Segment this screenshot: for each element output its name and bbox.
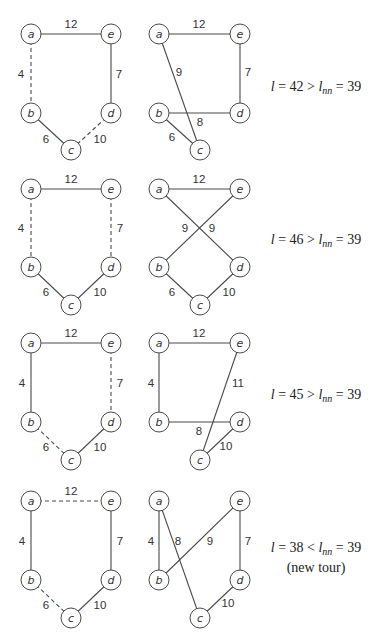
- graph-panel-original-tour: 1247610aebdc: [19, 327, 123, 470]
- node-label: a: [28, 337, 35, 350]
- node-label: a: [28, 28, 35, 41]
- node-e: e: [230, 333, 250, 353]
- node-c: c: [61, 295, 81, 315]
- edge-weight-label: 12: [193, 18, 206, 30]
- edge-weight-label: 12: [65, 173, 78, 185]
- edge-weight-label: 7: [245, 535, 251, 547]
- tour-length-formula: l = 45 > lnn = 39: [255, 387, 377, 407]
- node-d: d: [230, 103, 250, 123]
- node-label: b: [156, 261, 163, 274]
- edge-weight-label: 6: [43, 286, 49, 298]
- edge-weight-label: 4: [19, 535, 26, 547]
- tour-length-formula: l = 38 < lnn = 39(new tour): [255, 540, 377, 576]
- node-label: e: [237, 495, 244, 508]
- node-label: b: [28, 416, 35, 429]
- node-label: d: [237, 416, 245, 429]
- node-label: e: [108, 495, 115, 508]
- node-e: e: [101, 24, 121, 44]
- node-label: c: [197, 144, 203, 157]
- edge-weight-label: 6: [43, 133, 49, 145]
- formula-line: l = 42 > lnn = 39: [255, 79, 377, 99]
- node-a: a: [149, 24, 169, 44]
- node-label: d: [237, 574, 245, 587]
- node-b: b: [149, 257, 169, 277]
- graph-panel-modified-tour: 1299610aebdc: [149, 173, 250, 315]
- node-label: e: [237, 183, 244, 196]
- edge-weight-label: 4: [18, 68, 25, 80]
- node-label: d: [237, 107, 245, 120]
- edge-weight-label: 6: [169, 286, 175, 298]
- node-d: d: [101, 257, 121, 277]
- edge-weight-label: 12: [65, 485, 78, 497]
- graph-panel-original-tour: 1247610aebdc: [18, 173, 123, 315]
- node-label: b: [28, 261, 35, 274]
- node-label: d: [108, 416, 116, 429]
- node-label: c: [68, 144, 74, 157]
- node-e: e: [230, 24, 250, 44]
- node-c: c: [190, 140, 210, 160]
- edge-weight-label: 10: [94, 286, 107, 298]
- node-b: b: [149, 103, 169, 123]
- node-e: e: [101, 491, 121, 511]
- edge-weight-label: 9: [207, 535, 213, 547]
- node-label: e: [108, 28, 115, 41]
- edge-weight-label: 4: [19, 377, 26, 389]
- node-c: c: [190, 295, 210, 315]
- edge-weight-label: 12: [65, 327, 78, 339]
- node-label: e: [108, 183, 115, 196]
- node-d: d: [101, 412, 121, 432]
- edge-weight-label: 7: [117, 222, 123, 234]
- node-e: e: [101, 179, 121, 199]
- edge-weight-label: 11: [232, 377, 244, 389]
- graph-panel-modified-tour: 129786aebdc: [149, 18, 251, 160]
- node-label: d: [108, 107, 116, 120]
- edge-weight-label: 10: [94, 599, 107, 611]
- node-label: a: [156, 183, 163, 196]
- edge-weight-label: 7: [117, 377, 123, 389]
- node-a: a: [21, 333, 41, 353]
- edge-weight-label: 6: [43, 441, 49, 453]
- node-b: b: [149, 570, 169, 590]
- node-label: a: [156, 337, 163, 350]
- node-a: a: [149, 179, 169, 199]
- node-d: d: [230, 257, 250, 277]
- node-label: e: [237, 28, 244, 41]
- edge-weight-label: 8: [197, 116, 203, 128]
- node-a: a: [21, 179, 41, 199]
- edge-weight-label: 4: [148, 535, 155, 547]
- graph-panel-modified-tour: 489710aebdc: [148, 491, 251, 628]
- node-label: c: [68, 454, 74, 467]
- formula-line: l = 38 < lnn = 39: [255, 540, 377, 560]
- edge-weight-label: 10: [223, 286, 236, 298]
- node-b: b: [21, 103, 41, 123]
- node-label: b: [156, 574, 163, 587]
- node-c: c: [190, 450, 210, 470]
- edge-weight-label: 10: [220, 440, 233, 452]
- edge-weight-label: 12: [193, 173, 206, 185]
- node-label: d: [108, 261, 116, 274]
- node-label: b: [156, 107, 163, 120]
- node-a: a: [21, 24, 41, 44]
- node-label: a: [156, 495, 163, 508]
- node-d: d: [101, 570, 121, 590]
- tour-length-formula: l = 42 > lnn = 39: [255, 79, 377, 99]
- node-label: a: [156, 28, 163, 41]
- node-label: c: [197, 612, 203, 625]
- edge-weight-label: 6: [169, 131, 175, 143]
- edge-weight-label: 12: [65, 18, 78, 30]
- node-e: e: [230, 179, 250, 199]
- graph-panel-original-tour: 1247610aebdc: [19, 485, 123, 628]
- formula-note: (new tour): [255, 560, 377, 576]
- node-e: e: [101, 333, 121, 353]
- formula-line: l = 46 > lnn = 39: [255, 232, 377, 252]
- edge-weight-label: 8: [196, 425, 202, 437]
- edge-weight-label: 9: [209, 222, 215, 234]
- node-d: d: [230, 570, 250, 590]
- edge-a-c: [159, 34, 200, 150]
- edge-weight-label: 9: [182, 222, 188, 234]
- node-label: e: [237, 337, 244, 350]
- node-e: e: [230, 491, 250, 511]
- edge-weight-label: 4: [148, 377, 155, 389]
- edge-weight-label: 4: [18, 222, 25, 234]
- edge-weight-label: 6: [43, 599, 49, 611]
